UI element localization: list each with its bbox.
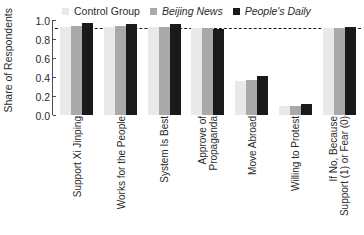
bar bbox=[202, 28, 213, 115]
y-axis-title-text: Share of Respondents bbox=[3, 8, 14, 113]
x-tick-label-line: If No, Because bbox=[328, 116, 339, 182]
bar bbox=[345, 27, 356, 115]
bar bbox=[213, 29, 224, 115]
legend-item-1: Control Group bbox=[62, 6, 140, 17]
bar bbox=[290, 106, 301, 116]
bar bbox=[126, 24, 137, 115]
bar-group bbox=[55, 20, 99, 115]
x-tick-label: Support Xi Jinping bbox=[69, 116, 85, 228]
y-tick-label: 0.6 bbox=[35, 54, 50, 65]
y-tick-label: 0.0 bbox=[35, 111, 50, 122]
y-tick-label: 1.0 bbox=[35, 16, 50, 27]
bar bbox=[235, 81, 246, 115]
x-tick-label: Works for the People bbox=[113, 116, 129, 228]
y-axis-title: Share of Respondents bbox=[0, 0, 16, 120]
x-tick-label: System Is Best bbox=[156, 116, 172, 228]
legend-swatch-icon bbox=[62, 8, 69, 15]
legend-item-2: Beijing News bbox=[150, 6, 223, 17]
x-tick-label: Approve ofPropaganda bbox=[196, 116, 220, 228]
x-tick-label: Move Abroad bbox=[244, 116, 260, 228]
bar-group bbox=[99, 20, 143, 115]
x-axis-tick-labels: Support Xi JinpingWorks for the PeopleSy… bbox=[55, 116, 361, 235]
legend-label: Beijing News bbox=[162, 6, 223, 17]
bar bbox=[104, 27, 115, 115]
legend-swatch-icon bbox=[233, 8, 240, 15]
legend-label: Control Group bbox=[74, 6, 140, 17]
bar bbox=[71, 26, 82, 115]
x-tick-label-line: Approve of bbox=[197, 116, 208, 164]
chart-legend: Control GroupBeijing NewsPeople's Daily bbox=[62, 3, 362, 19]
bar bbox=[323, 28, 334, 115]
bar bbox=[60, 27, 71, 115]
bar bbox=[170, 24, 181, 115]
bar bbox=[257, 76, 268, 115]
x-tick-label-line: Support (1) or Fear (0) bbox=[339, 116, 350, 216]
bar-group bbox=[317, 20, 361, 115]
bar bbox=[115, 26, 126, 115]
bar-chart-figure: Control GroupBeijing NewsPeople's Daily … bbox=[0, 0, 364, 235]
x-tick-label-line: System Is Best bbox=[159, 116, 170, 183]
x-tick-label-line: Willing to Protest bbox=[290, 116, 301, 191]
bar bbox=[82, 23, 93, 115]
bar bbox=[334, 28, 345, 115]
bar bbox=[159, 27, 170, 115]
bar bbox=[191, 28, 202, 115]
bar-group bbox=[142, 20, 186, 115]
legend-swatch-icon bbox=[150, 8, 157, 15]
legend-item-3: People's Daily bbox=[233, 6, 311, 17]
x-tick-label-line: Move Abroad bbox=[246, 116, 257, 175]
bar-group bbox=[230, 20, 274, 115]
bar bbox=[279, 106, 290, 115]
bar-group bbox=[186, 20, 230, 115]
x-tick-label-line: Propaganda bbox=[208, 116, 219, 171]
bar bbox=[246, 80, 257, 115]
y-tick-label: 0.8 bbox=[35, 35, 50, 46]
y-tick-label: 0.4 bbox=[35, 73, 50, 84]
bar bbox=[301, 104, 312, 115]
y-tick-label: 0.2 bbox=[35, 92, 50, 103]
bar bbox=[148, 27, 159, 115]
bar-group bbox=[274, 20, 318, 115]
x-tick-label-line: Works for the People bbox=[115, 116, 126, 209]
x-tick-label-line: Support Xi Jinping bbox=[71, 116, 82, 197]
x-tick-label: Willing to Protest bbox=[287, 116, 303, 228]
x-tick-label: If No, BecauseSupport (1) or Fear (0) bbox=[327, 116, 351, 228]
plot-area bbox=[55, 20, 361, 115]
legend-label: People's Daily bbox=[245, 6, 311, 17]
